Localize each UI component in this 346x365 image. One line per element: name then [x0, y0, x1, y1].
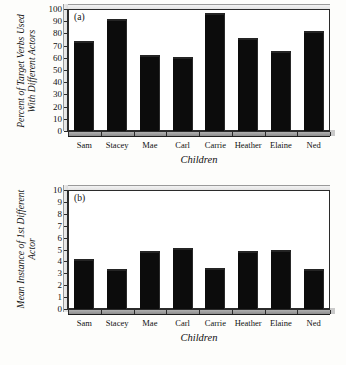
- bar-cell: [166, 9, 199, 131]
- x-axis-labels-a: SamStaceyMaeCarlCarrieHeatherElaineNed: [68, 140, 330, 150]
- x-axis-label-sam: Sam: [68, 140, 101, 150]
- x-axis-label-carrie: Carrie: [199, 318, 232, 328]
- bar-cell: [166, 190, 199, 309]
- x-tick-b-0: [68, 310, 69, 314]
- bar-group-b: [68, 190, 330, 309]
- bar-cell: [232, 190, 265, 309]
- x-axis-label-sam: Sam: [68, 318, 101, 328]
- y-tick-label-b-0: 0: [58, 304, 63, 314]
- x-axis-label-ned: Ned: [297, 318, 330, 328]
- x-axis-title-b: Children: [68, 332, 330, 343]
- x-axis-label-stacey: Stacey: [101, 140, 134, 150]
- y-tick-label-a-40: 40: [53, 77, 62, 87]
- x-axis-label-elaine: Elaine: [265, 318, 298, 328]
- bar-b-stacey: [107, 271, 127, 309]
- x-tick-b-3: [166, 310, 167, 314]
- y-tick-label-a-10: 10: [53, 114, 62, 124]
- bar-b-carl: [173, 250, 193, 310]
- x-axis-label-mae: Mae: [134, 140, 167, 150]
- bar-b-heather: [238, 253, 258, 309]
- y-tick-label-b-8: 8: [58, 209, 63, 219]
- y-tick-label-a-70: 70: [53, 41, 62, 51]
- x-tick-a-1: [101, 132, 102, 136]
- y-tick-label-a-0: 0: [58, 126, 63, 136]
- y-tick-label-a-100: 100: [49, 4, 63, 14]
- y-tick-label-b-5: 5: [58, 245, 63, 255]
- bar-cell: [134, 9, 167, 131]
- bar-group-a: [68, 9, 330, 131]
- bar-cell: [232, 9, 265, 131]
- y-tick-label-a-80: 80: [53, 28, 62, 38]
- y-tick-label-b-7: 7: [58, 221, 63, 231]
- x-axis-label-elaine: Elaine: [265, 140, 298, 150]
- bar-b-carrie: [205, 270, 225, 309]
- bar-cell: [265, 9, 298, 131]
- x-tick-a-3: [166, 132, 167, 136]
- x-axis-title-a: Children: [68, 154, 330, 165]
- plot-area-b: (b) 012345678910: [68, 190, 330, 309]
- bar-a-carl: [173, 59, 193, 131]
- x-tick-a-2: [134, 132, 135, 136]
- bar-cell: [68, 190, 101, 309]
- y-tick-label-b-6: 6: [58, 233, 63, 243]
- bar-a-elaine: [271, 53, 291, 131]
- x-axis-label-ned: Ned: [297, 140, 330, 150]
- y-tick-label-a-90: 90: [53, 16, 62, 26]
- bar-cell: [68, 9, 101, 131]
- bar-a-stacey: [107, 21, 127, 131]
- bar-b-elaine: [271, 252, 291, 309]
- x-tick-b-6: [265, 310, 266, 314]
- x-tick-a-7: [297, 132, 298, 136]
- bar-cell: [134, 190, 167, 309]
- plot-area-a: (a) 0102030405060708090100: [68, 9, 330, 131]
- bar-cell: [199, 190, 232, 309]
- bar-b-sam: [74, 261, 94, 309]
- y-axis-title-b-line1: Mean Instance of 1st Different: [16, 188, 27, 310]
- bar-cell: [101, 9, 134, 131]
- chart-panel-a: Percent of Target Verbs Used With Differ…: [0, 0, 346, 182]
- chart-panel-b: Mean Instance of 1st Different Actor (b)…: [0, 178, 346, 365]
- x-axis-label-heather: Heather: [232, 318, 265, 328]
- bar-b-ned: [304, 271, 324, 309]
- y-tick-label-b-10: 10: [53, 185, 62, 195]
- x-axis-label-mae: Mae: [134, 318, 167, 328]
- bar-a-carrie: [205, 15, 225, 131]
- x-tick-a-6: [265, 132, 266, 136]
- y-axis-title-a: Percent of Target Verbs Used With Differ…: [16, 9, 38, 134]
- bar-a-sam: [74, 43, 94, 131]
- x-tick-b-2: [134, 310, 135, 314]
- figure-canvas: Percent of Target Verbs Used With Differ…: [0, 0, 346, 365]
- y-axis-title-a-line1: Percent of Target Verbs Used: [16, 9, 27, 134]
- x-axis-label-carrie: Carrie: [199, 140, 232, 150]
- bar-cell: [199, 9, 232, 131]
- x-axis-label-heather: Heather: [232, 140, 265, 150]
- x-axis-label-stacey: Stacey: [101, 318, 134, 328]
- y-tick-label-b-3: 3: [58, 268, 63, 278]
- y-tick-label-a-30: 30: [53, 89, 62, 99]
- x-axis-label-carl: Carl: [166, 318, 199, 328]
- bar-a-mae: [140, 57, 160, 131]
- bar-b-mae: [140, 253, 160, 309]
- x-tick-a-8: [330, 132, 331, 136]
- x-tick-b-1: [101, 310, 102, 314]
- x-axis-label-carl: Carl: [166, 140, 199, 150]
- bar-cell: [297, 9, 330, 131]
- y-tick-label-b-2: 2: [58, 280, 63, 290]
- y-tick-label-a-50: 50: [53, 65, 62, 75]
- y-axis-title-b: Mean Instance of 1st Different Actor: [16, 188, 38, 310]
- x-tick-b-7: [297, 310, 298, 314]
- y-tick-label-b-9: 9: [58, 197, 63, 207]
- y-tick-label-a-60: 60: [53, 53, 62, 63]
- x-tick-b-4: [199, 310, 200, 314]
- bar-cell: [265, 190, 298, 309]
- x-tick-b-8: [330, 310, 331, 314]
- y-tick-label-b-1: 1: [58, 292, 63, 302]
- bar-a-ned: [304, 33, 324, 131]
- bar-cell: [297, 190, 330, 309]
- bar-cell: [101, 190, 134, 309]
- x-tick-a-4: [199, 132, 200, 136]
- y-axis-title-a-line2: With Different Actors: [27, 9, 38, 134]
- x-tick-a-5: [232, 132, 233, 136]
- y-tick-label-b-4: 4: [58, 256, 63, 266]
- y-tick-label-a-20: 20: [53, 102, 62, 112]
